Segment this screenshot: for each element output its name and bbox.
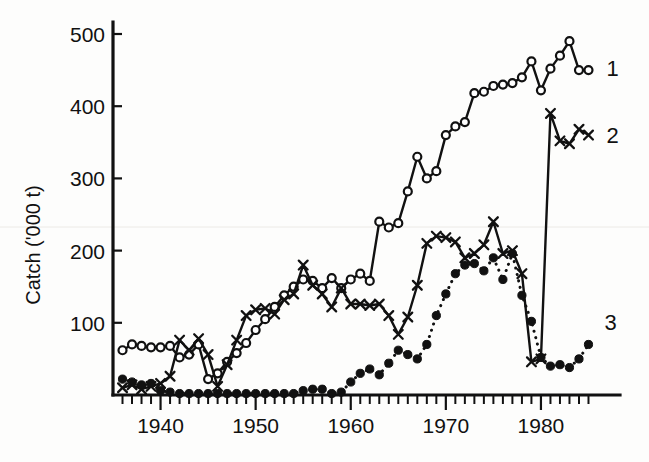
series-3-marker xyxy=(584,340,592,348)
series-3-marker xyxy=(299,387,307,395)
catch-line-chart: 10020030040050019401950196019701980 123 … xyxy=(0,0,649,462)
series-1-marker xyxy=(356,270,364,278)
series-1-marker xyxy=(166,342,174,350)
series-3-marker xyxy=(442,290,450,298)
series-3-marker xyxy=(461,261,469,269)
series-3-marker xyxy=(328,389,336,397)
series-1-marker xyxy=(252,326,260,334)
series-3-marker xyxy=(537,353,545,361)
series-3-marker xyxy=(252,389,260,397)
series-3-marker xyxy=(204,389,212,397)
series-1-marker xyxy=(261,315,269,323)
series-1-marker xyxy=(366,277,374,285)
y-axis-title-group: Catch ('000 t) xyxy=(22,185,44,304)
series-3-marker xyxy=(261,389,269,397)
series-label-2: 2 xyxy=(606,123,618,148)
series-1-marker xyxy=(527,57,535,65)
series-1-marker xyxy=(499,81,507,89)
series-3-marker xyxy=(223,389,231,397)
series-3-marker xyxy=(518,291,526,299)
series-1-marker xyxy=(546,65,554,73)
series-3-marker xyxy=(527,317,535,325)
series-1-marker xyxy=(119,346,127,354)
series-1-marker xyxy=(575,66,583,74)
series-1-marker xyxy=(442,131,450,139)
series-3-marker xyxy=(137,381,145,389)
series-3-marker xyxy=(394,346,402,354)
series-3-marker xyxy=(128,378,136,386)
series-3-marker xyxy=(280,389,288,397)
series-1-marker xyxy=(470,89,478,97)
series-1-marker xyxy=(328,274,336,282)
series-1-marker xyxy=(423,174,431,182)
series-3-marker xyxy=(565,363,573,371)
series-3-marker xyxy=(546,362,554,370)
series-1-marker xyxy=(157,343,165,351)
series-3-marker xyxy=(432,311,440,319)
series-1-marker xyxy=(347,275,355,283)
series-3-marker xyxy=(499,275,507,283)
series-1-marker xyxy=(489,82,497,90)
series-3-marker xyxy=(451,270,459,278)
series-3-marker xyxy=(156,387,164,395)
series-3-marker xyxy=(356,369,364,377)
series-3-marker xyxy=(118,375,126,383)
series-3-marker xyxy=(375,371,383,379)
series-1-marker xyxy=(565,37,573,45)
series-3-marker xyxy=(175,389,183,397)
series-1-marker xyxy=(242,339,250,347)
series-1-marker xyxy=(451,122,459,130)
series-3-marker xyxy=(194,389,202,397)
series-3-marker xyxy=(318,385,326,393)
series-3-marker xyxy=(233,389,241,397)
series-3-marker xyxy=(413,355,421,363)
x-tick-label: 1960 xyxy=(327,414,374,437)
series-3-marker xyxy=(470,260,478,268)
series-1-marker xyxy=(128,340,136,348)
series-3-marker xyxy=(347,378,355,386)
series-3-marker xyxy=(423,340,431,348)
series-1-marker xyxy=(480,88,488,96)
series-1-marker xyxy=(584,66,592,74)
series-1-marker xyxy=(556,52,564,60)
x-tick-label: 1950 xyxy=(232,414,279,437)
series-1-marker xyxy=(394,219,402,227)
series-label-1: 1 xyxy=(606,56,618,81)
series-3-marker xyxy=(185,389,193,397)
series-3-marker xyxy=(489,254,497,262)
series-1-marker xyxy=(537,86,545,94)
series-3-marker xyxy=(404,350,412,358)
series-1-marker xyxy=(413,153,421,161)
series-3-marker xyxy=(385,359,393,367)
series-1-marker xyxy=(508,79,516,87)
series-1-marker xyxy=(375,218,383,226)
y-tick-label: 400 xyxy=(70,95,105,118)
y-tick-label: 200 xyxy=(70,240,105,263)
series-3-marker xyxy=(480,267,488,275)
y-tick-label: 500 xyxy=(70,23,105,46)
series-3-marker xyxy=(508,249,516,257)
series-3-marker xyxy=(556,361,564,369)
x-tick-label: 1940 xyxy=(137,414,184,437)
series-1-marker xyxy=(518,73,526,81)
series-1-marker xyxy=(204,375,212,383)
series-3-marker xyxy=(575,355,583,363)
series-3-marker xyxy=(242,389,250,397)
series-1-marker xyxy=(385,224,393,232)
series-1-marker xyxy=(432,167,440,175)
x-tick-label: 1970 xyxy=(422,414,469,437)
series-1-marker xyxy=(147,343,155,351)
y-tick-label: 300 xyxy=(70,167,105,190)
series-3-marker xyxy=(290,389,298,397)
chart-figure: 10020030040050019401950196019701980 123 … xyxy=(0,0,649,462)
y-axis-title: Catch ('000 t) xyxy=(22,185,44,304)
series-3-marker xyxy=(214,389,222,397)
series-3-marker xyxy=(147,379,155,387)
series-3-marker xyxy=(337,388,345,396)
series-1-marker xyxy=(404,187,412,195)
series-label-3: 3 xyxy=(604,310,616,335)
x-tick-label: 1980 xyxy=(518,414,565,437)
series-3-marker xyxy=(366,365,374,373)
series-1-marker xyxy=(461,118,469,126)
series-3-marker xyxy=(166,388,174,396)
